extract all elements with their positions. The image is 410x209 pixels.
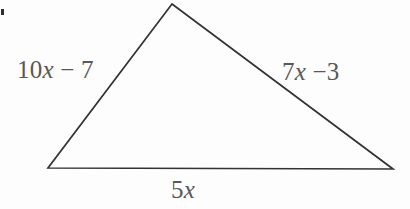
right-side-coefficient: 7: [282, 58, 295, 85]
right-side-length-label: 7x −3: [282, 59, 339, 84]
scan-speck-artifact: [1, 9, 4, 15]
base-coefficient: 5: [171, 176, 184, 203]
left-side-coefficient: 10: [17, 56, 42, 83]
left-side-operator: −: [54, 56, 81, 83]
triangle-figure: 10x − 7 7x −3 5x: [0, 0, 410, 209]
left-side-variable: x: [42, 56, 53, 83]
left-side-constant: 7: [81, 56, 94, 83]
triangle-outline: [48, 4, 393, 169]
triangle-shape: [0, 0, 410, 209]
right-side-variable: x: [295, 58, 306, 85]
right-side-operator: −: [306, 58, 327, 85]
right-side-constant: 3: [327, 58, 340, 85]
left-side-length-label: 10x − 7: [17, 57, 94, 82]
base-variable: x: [184, 176, 195, 203]
base-length-label: 5x: [171, 177, 195, 202]
